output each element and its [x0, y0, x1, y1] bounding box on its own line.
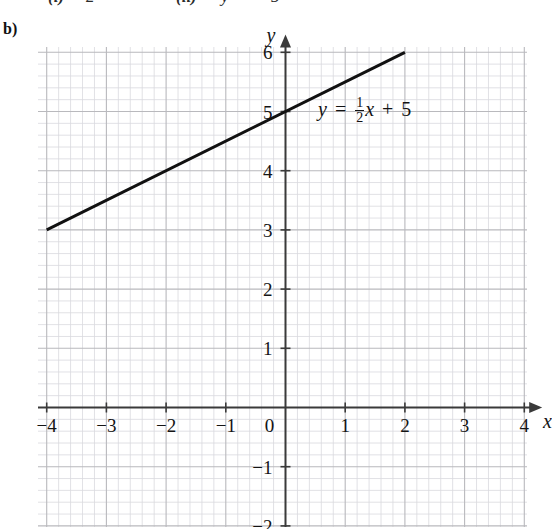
equation-fraction-denominator: 2	[355, 110, 364, 125]
y-tick-label: −2	[252, 516, 272, 529]
y-tick-label: 1	[263, 338, 273, 359]
equation-annotation: y = 1 2 x + 5	[318, 96, 411, 126]
x-tick-label: −4	[37, 415, 58, 436]
x-tick-label: −1	[216, 415, 236, 436]
equation-variable: x	[365, 98, 374, 120]
graph-container: −4−3−2−101234−2−1123456 yx	[0, 0, 552, 529]
coordinate-grid-chart: −4−3−2−101234−2−1123456 yx	[0, 0, 552, 529]
equation-constant: 5	[401, 98, 411, 120]
grid-minor-lines	[38, 47, 527, 527]
x-tick-label: 4	[520, 415, 530, 436]
y-axis-label: y	[265, 24, 276, 47]
y-tick-label: 4	[263, 161, 273, 182]
axis-tick-labels: −4−3−2−101234−2−1123456	[37, 42, 530, 529]
y-tick-label: 3	[263, 220, 273, 241]
x-tick-label: 3	[460, 415, 470, 436]
equation-fraction: 1 2	[355, 96, 364, 126]
equation-plus: +	[379, 98, 396, 120]
equation-fraction-numerator: 1	[355, 96, 364, 110]
x-axis-label: x	[542, 410, 552, 432]
equation-equals: =	[332, 98, 349, 120]
y-tick-label: 2	[263, 279, 273, 300]
x-tick-label: 1	[340, 415, 350, 436]
equation-lhs: y	[318, 98, 327, 120]
x-tick-label: −3	[96, 415, 116, 436]
x-tick-label: 2	[400, 415, 410, 436]
axis-name-labels: yx	[265, 24, 552, 432]
x-tick-label: 0	[265, 415, 275, 436]
y-tick-label: −1	[252, 457, 272, 478]
x-tick-label: −2	[156, 415, 176, 436]
